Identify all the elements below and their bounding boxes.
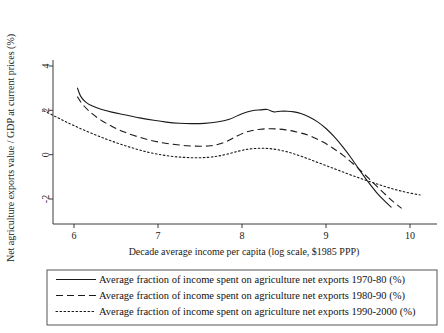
x-tick-label: 9 bbox=[324, 230, 329, 241]
x-axis-title: Decade average income per capita (log sc… bbox=[129, 246, 360, 258]
chart-figure: 420-2 678910 Net agriculture exports val… bbox=[0, 0, 444, 333]
y-tick-label: 4 bbox=[40, 64, 51, 69]
y-tick-label: -2 bbox=[40, 195, 51, 203]
legend-label-2: Average fraction of income spent on agri… bbox=[99, 290, 405, 302]
legend-label-3: Average fraction of income spent on agri… bbox=[99, 306, 416, 318]
x-tick-label: 8 bbox=[240, 230, 245, 241]
legend-label-1: Average fraction of income spent on agri… bbox=[99, 274, 405, 286]
chart-legend: Average fraction of income spent on agri… bbox=[47, 270, 437, 325]
x-tick-label: 6 bbox=[72, 230, 77, 241]
x-tick-label: 10 bbox=[405, 230, 415, 241]
y-tick-label: 0 bbox=[40, 152, 51, 157]
x-tick-label: 7 bbox=[156, 230, 161, 241]
y-tick-label: 2 bbox=[40, 108, 51, 113]
y-axis-title: Net agriculture exports value / GDP at c… bbox=[5, 34, 17, 262]
